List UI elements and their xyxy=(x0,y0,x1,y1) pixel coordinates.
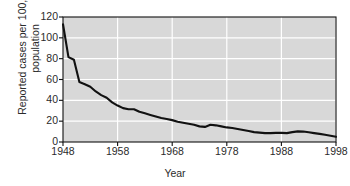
x-tick-label: 1988 xyxy=(261,145,301,157)
chart-figure: 120100806040200 194819581968197819881998… xyxy=(0,0,350,186)
x-tick-label: 1978 xyxy=(207,145,247,157)
x-axis-tick-labels: 194819581968197819881998 xyxy=(0,0,350,186)
y-axis-title: Reported cases per 100,000 population xyxy=(16,0,41,129)
x-tick-label: 1958 xyxy=(98,145,138,157)
x-tick-label: 1968 xyxy=(152,145,192,157)
x-tick-label: 1998 xyxy=(316,145,350,157)
x-axis-title: Year xyxy=(0,167,350,179)
x-tick-label: 1948 xyxy=(43,145,83,157)
